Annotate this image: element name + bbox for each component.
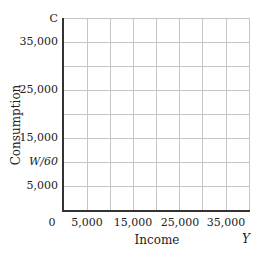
x-tick-label: 0 <box>49 217 56 229</box>
y-tick-label: 15,000 <box>20 132 59 144</box>
x-tick-label: 35,000 <box>207 217 246 229</box>
y-tick-label: 25,000 <box>20 84 59 96</box>
x-tick-label: 25,000 <box>161 217 200 229</box>
plot-area <box>63 18 249 210</box>
x-axis-title: Income <box>135 233 180 247</box>
y-axis <box>62 18 64 211</box>
x-tick-label: 15,000 <box>114 217 153 229</box>
gridline-horizontal <box>63 66 249 67</box>
y-tick-label: 35,000 <box>20 36 59 48</box>
gridline-horizontal <box>63 90 249 91</box>
y-axis-title: Consumption <box>9 85 23 166</box>
x-axis <box>62 210 250 212</box>
gridline-horizontal <box>63 138 249 139</box>
y-tick-label: 5,000 <box>27 180 59 192</box>
y-tick-label: W/60 <box>29 156 58 168</box>
gridline-horizontal <box>63 162 249 163</box>
gridline-horizontal <box>63 18 249 19</box>
gridline-horizontal <box>63 186 249 187</box>
gridline-horizontal <box>63 42 249 43</box>
y-axis-symbol: C <box>50 13 58 25</box>
gridline-horizontal <box>63 114 249 115</box>
x-tick-label: 5,000 <box>71 217 103 229</box>
gridline-vertical <box>249 18 250 210</box>
x-axis-symbol: Y <box>242 233 250 245</box>
